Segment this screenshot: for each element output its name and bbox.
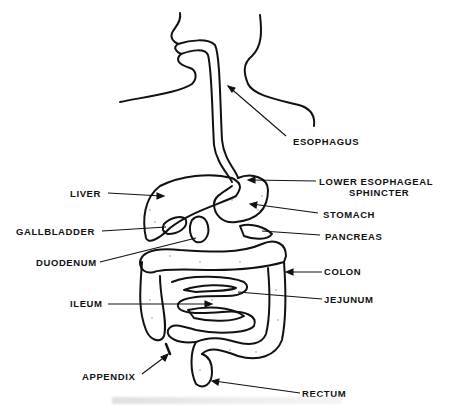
label-sphincter: SPHINCTER (349, 187, 409, 198)
figure-caption-illegible (112, 397, 342, 404)
small-intestine (168, 277, 255, 343)
appendix (166, 344, 170, 354)
label-lower-esophageal-sphincter: LOWER ESOPHAGEAL (319, 176, 433, 187)
stipple-texture (149, 195, 278, 370)
leader-jejunum (238, 292, 322, 299)
esophagus-outer (178, 40, 238, 178)
leader-rectum (214, 381, 300, 393)
leader-gallbladder (102, 227, 166, 231)
leader-les (250, 180, 316, 181)
leader-esophagus (228, 86, 286, 136)
label-pancreas: PANCREAS (325, 231, 382, 242)
label-liver: LIVER (70, 188, 101, 199)
label-appendix: APPENDIX (82, 371, 135, 382)
esophagus-inner (181, 50, 232, 182)
label-gallbladder: GALLBLADDER (16, 226, 95, 237)
ascending-colon (140, 262, 165, 340)
label-duodenum: DUODENUM (36, 257, 97, 268)
label-esophagus: ESOPHAGUS (293, 136, 359, 147)
rectum (192, 342, 213, 386)
label-colon: COLON (324, 266, 361, 277)
stomach (214, 176, 268, 223)
face-profile (120, 13, 196, 102)
small-intestine-inner (184, 285, 244, 321)
digestive-system-diagram: ESOPHAGUS LOWER ESOPHAGEAL SPHINCTER STO… (0, 0, 449, 407)
liver (144, 175, 240, 241)
label-jejunum: JEJUNUM (324, 294, 374, 305)
label-ileum: ILEUM (70, 298, 103, 309)
leader-liver (108, 193, 162, 196)
label-stomach: STOMACH (323, 209, 375, 220)
anatomy-illustration (0, 0, 449, 407)
